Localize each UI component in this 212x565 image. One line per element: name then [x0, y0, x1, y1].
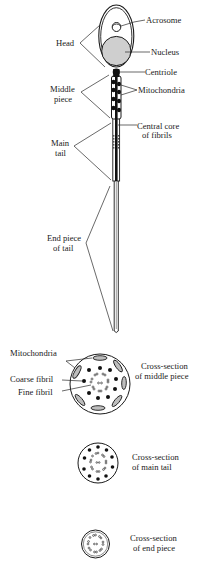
label-end-piece-1: End piece — [47, 233, 81, 243]
caption-end-piece-2: of end piece — [133, 543, 175, 553]
label-head: Head — [56, 38, 75, 48]
caption-end-piece-1: Cross-section — [130, 533, 177, 543]
cross-section-main-tail-labels: Cross-section of main tail — [132, 452, 179, 472]
caption-middle-1: Cross-section — [141, 361, 188, 371]
middle-piece — [112, 76, 122, 119]
label-middle-piece-2: piece — [54, 94, 72, 104]
label-acrosome: Acrosome — [146, 15, 182, 25]
label-cs-mitochondria: Mitochondria — [10, 348, 57, 358]
cross-section-middle-piece — [70, 354, 130, 414]
sperm-longitudinal — [99, 5, 134, 333]
centriole — [113, 69, 120, 77]
label-main-tail-2: tail — [55, 148, 67, 158]
label-mitochondria: Mitochondria — [138, 85, 185, 95]
label-coarse-fibril: Coarse fibril — [10, 374, 54, 384]
cross-section-main-tail — [78, 443, 118, 483]
cross-section-end-piece — [82, 530, 110, 558]
label-main-tail-1: Main — [51, 138, 70, 148]
end-piece-of-tail — [114, 180, 118, 333]
cross-section-end-piece-labels: Cross-section of end piece — [130, 533, 177, 553]
label-centriole: Centriole — [145, 67, 177, 77]
caption-main-tail-1: Cross-section — [132, 452, 179, 462]
label-fine-fibril: Fine fibril — [18, 387, 53, 397]
nucleus — [102, 36, 131, 65]
label-central-core-2: of fibrils — [142, 130, 172, 140]
label-end-piece-2: of tail — [53, 243, 74, 253]
head — [99, 5, 134, 67]
caption-middle-2: of middle piece — [135, 371, 189, 381]
label-middle-piece-1: Middle — [50, 84, 75, 94]
caption-main-tail-2: of main tail — [132, 462, 172, 472]
main-tail — [113, 118, 120, 181]
sperm-diagram: Acrosome Head Nucleus Centriole Middle p… — [0, 0, 212, 565]
label-nucleus: Nucleus — [151, 47, 180, 57]
